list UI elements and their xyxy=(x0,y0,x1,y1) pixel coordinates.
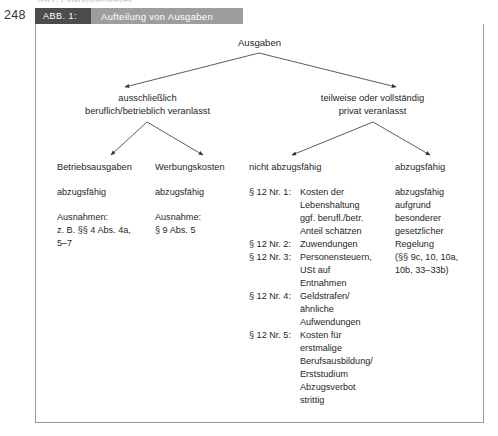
cut-off-running-header: Teil C Einkommensteuer xyxy=(36,0,246,2)
list-item-value: Kosten für erstmalige Berufsausbildung/ … xyxy=(300,329,397,407)
node-partly-or-fully-private: teilweise oder vollständig privat veranl… xyxy=(260,92,485,117)
list-item-value: Zuwendungen xyxy=(300,238,397,251)
list-item: § 12 Nr. 1: Kosten der Lebenshaltung ggf… xyxy=(249,186,397,238)
list-item-key: § 12 Nr. 4: xyxy=(249,290,300,329)
column1-exceptions: Ausnahmen: z. B. §§ 4 Abs. 4a, 5–7 xyxy=(57,211,161,250)
node-root: Ausgaben xyxy=(35,37,484,50)
node-betriebsausgaben: Betriebsausgaben xyxy=(57,161,162,174)
list-item: § 12 Nr. 3: Personensteuern, USt auf Ent… xyxy=(249,251,397,290)
list-item-value: Kosten der Lebenshaltung ggf. berufl./be… xyxy=(300,186,397,238)
list-item: § 12 Nr. 4: Geldstrafen/ ähnliche Aufwen… xyxy=(249,290,397,329)
column3-list: § 12 Nr. 1: Kosten der Lebenshaltung ggf… xyxy=(249,186,397,407)
node-abzugsfaehig: abzugsfähig xyxy=(395,161,495,174)
list-item: § 12 Nr. 5: Kosten für erstmalige Berufs… xyxy=(249,329,397,407)
node-werbungskosten: Werbungskosten xyxy=(155,161,260,174)
list-item-value: Personensteuern, USt auf Entnahmen xyxy=(300,251,397,290)
column1-status: abzugsfähig xyxy=(57,186,157,199)
list-item: § 12 Nr. 2: Zuwendungen xyxy=(249,238,397,251)
diagram-canvas: Ausgaben ausschließlich beruflich/betrie… xyxy=(35,24,484,423)
column2-exceptions: Ausnahme: § 9 Abs. 5 xyxy=(155,211,255,237)
column4-text: abzugsfähig aufgrund besonderer gesetzli… xyxy=(395,186,487,277)
page-number: 248 xyxy=(4,8,26,22)
figure-caption-bar: ABB. 1: Aufteilung von Ausgaben xyxy=(35,8,243,24)
list-item-value: Geldstrafen/ ähnliche Aufwendungen xyxy=(300,290,397,329)
list-item-key: § 12 Nr. 2: xyxy=(249,238,300,251)
figure-title: Aufteilung von Ausgaben xyxy=(91,8,243,24)
list-item-key: § 12 Nr. 3: xyxy=(249,251,300,290)
node-nicht-abzugsfaehig: nicht abzugsfähig xyxy=(249,161,374,174)
node-exclusively-business: ausschließlich beruflich/betrieblich ver… xyxy=(55,92,240,117)
list-item-key: § 12 Nr. 5: xyxy=(249,329,300,407)
column2-status: abzugsfähig xyxy=(155,186,255,199)
figure-number-label: ABB. 1: xyxy=(35,8,91,24)
list-item-key: § 12 Nr. 1: xyxy=(249,186,300,238)
